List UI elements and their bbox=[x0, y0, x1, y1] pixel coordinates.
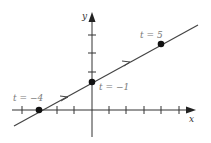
point-t-neg4 bbox=[36, 107, 43, 114]
parametric-line-diagram: x y t = −4 t = −1 t = 5 bbox=[0, 0, 211, 143]
label-t-5: t = 5 bbox=[140, 30, 163, 40]
y-axis-arrow-icon bbox=[89, 12, 96, 22]
x-axis-arrow-icon bbox=[186, 107, 196, 114]
label-t-neg1: t = −1 bbox=[99, 82, 129, 92]
x-axis-label: x bbox=[189, 114, 194, 124]
label-t-neg4: t = −4 bbox=[13, 93, 43, 103]
y-axis-label: y bbox=[81, 11, 88, 21]
point-t-5 bbox=[158, 41, 165, 48]
y-axis: y bbox=[81, 11, 96, 137]
point-t-neg1 bbox=[89, 79, 96, 86]
